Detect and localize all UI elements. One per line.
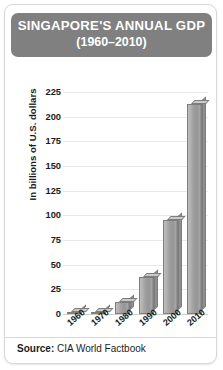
source-note: Source: CIA World Factbook — [17, 343, 146, 354]
y-tick-label: 175 — [31, 136, 61, 146]
x-axis-ticks: 196019701980199020002010 — [63, 61, 208, 331]
x-tick-label: 2010 — [185, 307, 207, 328]
plot-area: 196019701980199020002010 — [63, 61, 208, 331]
y-tick-label: 150 — [31, 161, 61, 171]
y-tick-label: 100 — [31, 210, 61, 220]
x-tick-label: 2000 — [161, 307, 183, 328]
chart-title: SINGAPORE'S ANNUAL GDP — [11, 17, 212, 34]
y-tick-label: 125 — [31, 186, 61, 196]
x-tick-label: 1960 — [65, 307, 87, 328]
chart-card: SINGAPORE'S ANNUAL GDP (1960–2010) In bi… — [4, 4, 217, 364]
y-tick-label: 0 — [31, 309, 61, 319]
source-value: CIA World Factbook — [57, 343, 146, 354]
title-banner: SINGAPORE'S ANNUAL GDP (1960–2010) — [11, 13, 212, 57]
y-tick-label: 200 — [31, 112, 61, 122]
chart-subtitle: (1960–2010) — [11, 34, 212, 51]
source-label: Source: — [17, 343, 54, 354]
x-tick-label: 1980 — [113, 307, 135, 328]
x-tick-label: 1970 — [89, 307, 111, 328]
y-tick-label: 225 — [31, 87, 61, 97]
y-axis-ticks: 0255075100125150175200225 — [31, 61, 61, 331]
y-tick-label: 75 — [31, 235, 61, 245]
source-divider — [5, 337, 216, 338]
y-tick-label: 50 — [31, 260, 61, 270]
y-tick-label: 25 — [31, 284, 61, 294]
x-tick-label: 1990 — [137, 307, 159, 328]
chart-plot-region: In billions of U.S. dollars 025507510012… — [5, 61, 216, 331]
